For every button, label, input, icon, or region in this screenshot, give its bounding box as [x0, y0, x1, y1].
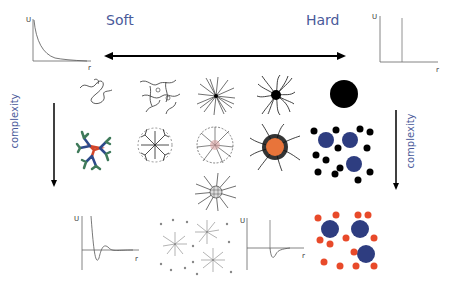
svg-text:U: U [372, 13, 377, 21]
svg-text:r: r [88, 64, 91, 72]
svg-text:U: U [240, 217, 245, 225]
hyperbranched-polymer [135, 125, 175, 165]
linear-polymer-coil [78, 76, 114, 106]
hard-sphere [330, 80, 358, 108]
polymer-network [136, 76, 182, 116]
binary-colloid-mixture [314, 212, 384, 278]
svg-text:U: U [26, 16, 31, 24]
svg-text:r: r [135, 255, 138, 263]
microgel [193, 123, 237, 167]
dendrimer [76, 128, 112, 170]
depletion-potential-plot: U r [240, 214, 310, 274]
svg-text:r: r [436, 66, 439, 74]
star-polymer-mixture [157, 214, 237, 279]
hard-potential-plot: U r [372, 10, 447, 70]
star-polymer [196, 76, 236, 116]
oscillatory-potential-plot: U r [73, 212, 143, 277]
colloid-polymer-mixture [310, 128, 380, 190]
soft-potential-plot: U r [25, 12, 95, 67]
svg-text:U: U [74, 215, 79, 223]
svg-text:r: r [302, 252, 305, 260]
grafted-colloid [248, 122, 302, 172]
dense-star-micelle [256, 74, 296, 116]
star-with-grid-core [194, 172, 238, 212]
